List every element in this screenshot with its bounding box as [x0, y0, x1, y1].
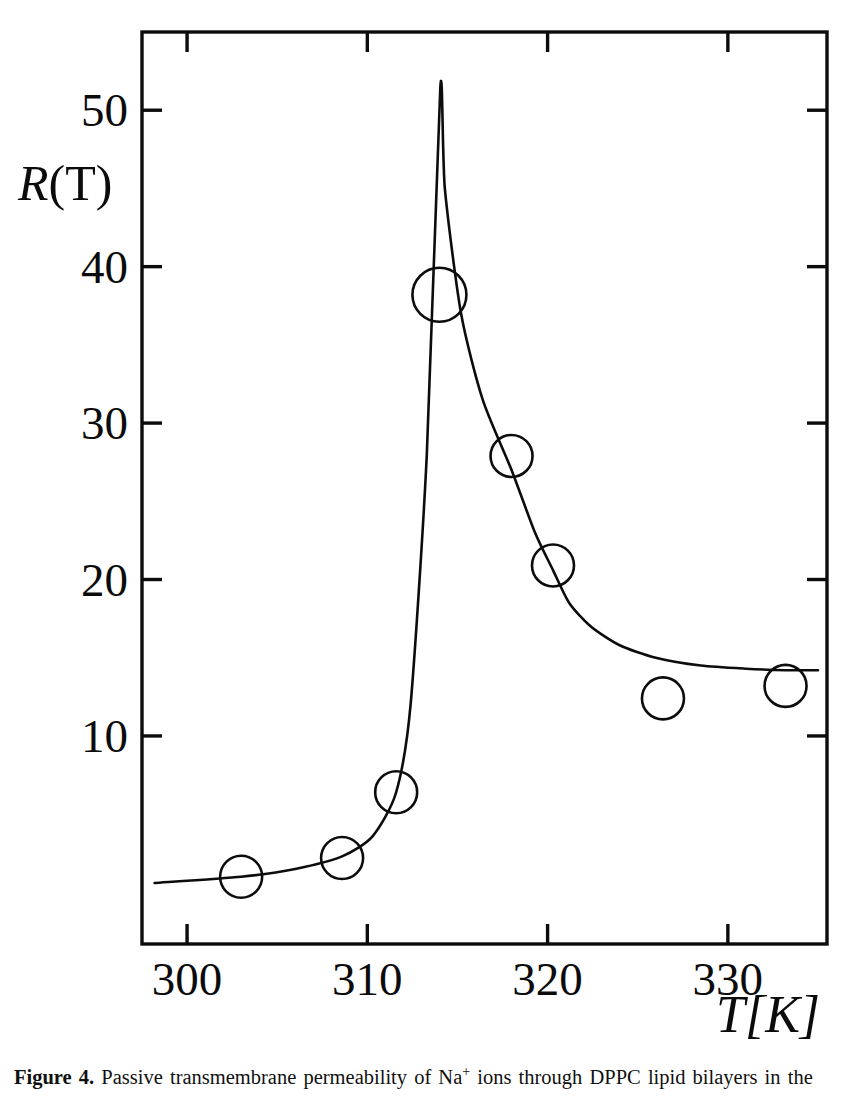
figure-container: 10 20 30 40 50 300 310 320 330 R(T) T[K]… — [0, 0, 867, 1097]
x-tick-label: 320 — [512, 956, 583, 1003]
caption-body: Passive transmembrane permeability of Na — [94, 1066, 462, 1088]
figure-caption: Figure 4. Passive transmembrane permeabi… — [14, 1064, 859, 1092]
x-axis-title: T[K] — [716, 989, 820, 1041]
plot-border — [142, 32, 827, 944]
axis-frame — [142, 32, 827, 944]
x-tick-label: 300 — [152, 956, 223, 1003]
y-axis-title: R(T) — [18, 158, 112, 208]
caption-label: Figure 4. — [14, 1066, 94, 1088]
x-axis-title-unit: [K] — [745, 986, 820, 1043]
fitted-curve — [155, 81, 818, 883]
y-axis-title-argument: (T) — [49, 155, 113, 211]
caption-tail: ions through DPPC lipid bilayers in the — [470, 1066, 813, 1088]
data-point-marker — [532, 544, 574, 586]
plot-area: 10 20 30 40 50 300 310 320 330 R(T) T[K] — [0, 0, 867, 1000]
tick-marks — [142, 32, 827, 944]
y-tick-label: 50 — [0, 87, 128, 134]
y-axis-title-variable: R — [18, 155, 49, 211]
y-tick-label: 40 — [0, 243, 128, 290]
data-point-marker — [642, 677, 684, 719]
x-axis-title-variable: T — [716, 986, 745, 1043]
x-tick-label: 310 — [332, 956, 403, 1003]
chart-canvas — [0, 0, 867, 1000]
y-tick-label: 30 — [0, 400, 128, 447]
caption-superscript: + — [462, 1064, 470, 1079]
data-point-markers — [220, 268, 806, 898]
y-tick-label: 20 — [0, 556, 128, 603]
y-tick-label: 10 — [0, 712, 128, 759]
data-point-marker — [321, 837, 363, 879]
